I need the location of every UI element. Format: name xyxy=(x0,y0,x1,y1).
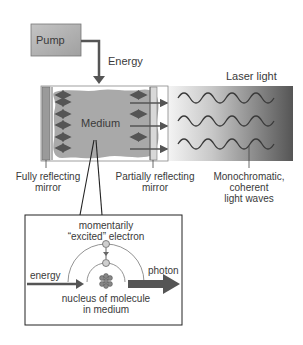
energy-label: Energy xyxy=(108,56,143,67)
photon-label: photon xyxy=(148,265,179,276)
excited-electron-label: momentarily “excited” electron xyxy=(56,220,156,242)
energy-inset-label: energy xyxy=(30,270,61,281)
nucleus-label: nucleus of molecule in medium xyxy=(56,293,156,315)
ground-electron xyxy=(103,260,110,267)
partially-reflecting-mirror-label: Partially reflecting mirror xyxy=(112,171,198,193)
medium-label: Medium xyxy=(81,118,120,129)
monochromatic-label: Monochromatic, coherent light waves xyxy=(209,171,289,204)
energy-arrow xyxy=(81,41,105,84)
laser-light-label: Laser light xyxy=(226,71,277,82)
laser-light-region xyxy=(168,86,293,161)
fully-reflecting-mirror xyxy=(42,87,50,160)
pump-label: Pump xyxy=(36,35,65,46)
fully-reflecting-mirror-label: Fully reflecting mirror xyxy=(12,171,84,193)
